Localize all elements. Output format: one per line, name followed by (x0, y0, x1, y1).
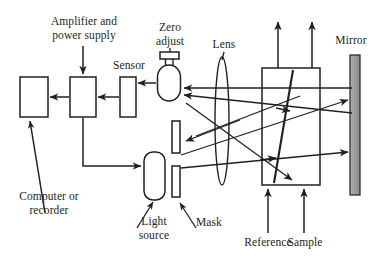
label-light-source: Light source (127, 215, 181, 242)
detector-capsule (158, 65, 181, 101)
label-zero-adjust: Zero adjust (144, 21, 196, 48)
label-sensor: Sensor (106, 59, 152, 72)
label-mirror: Mirror (328, 34, 374, 47)
arrow-amplifier-to-light-source (83, 118, 141, 166)
mask-bar-lower (172, 166, 180, 197)
mirror-bar (350, 55, 360, 195)
amplifier-box (70, 77, 96, 117)
label-sample: Sample (282, 236, 328, 249)
label-mask: Mask (189, 216, 229, 229)
mask-bar-upper (172, 121, 180, 153)
label-computer: Computer or recorder (6, 190, 92, 217)
sensor-box (120, 77, 136, 117)
label-amplifier: Amplifier and power supply (36, 15, 132, 42)
lens-ellipse (215, 57, 229, 185)
label-lens: Lens (204, 38, 244, 51)
optical-schematic-figure: Amplifier and power supply Zero adjust S… (0, 0, 381, 257)
computer-box (20, 77, 48, 117)
zero-adjust-knob (160, 52, 179, 59)
light-source-capsule (144, 152, 165, 200)
